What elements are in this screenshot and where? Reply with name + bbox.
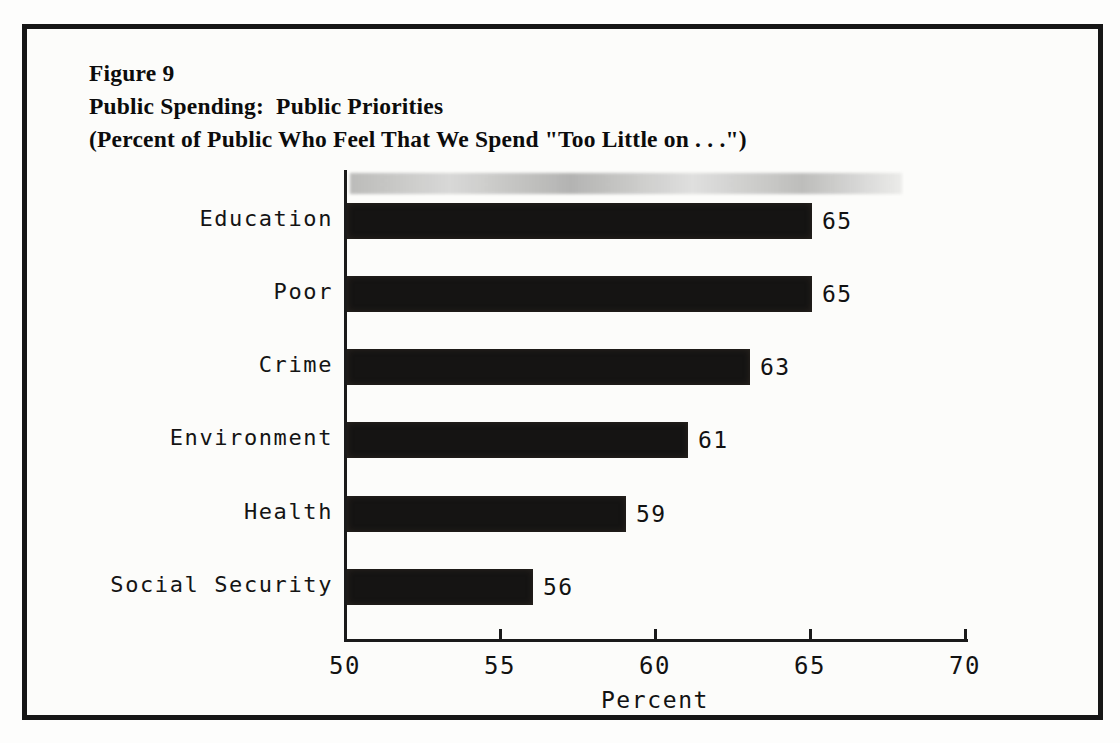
value-label: 59 xyxy=(636,501,667,527)
y-axis xyxy=(344,170,347,642)
x-tick-label: 55 xyxy=(455,652,545,680)
x-tick-label: 50 xyxy=(300,652,390,680)
x-tick-label: 70 xyxy=(920,652,1010,680)
category-label: Environment xyxy=(60,425,333,450)
scanned-figure-page: Figure 9 Public Spending: Public Priorit… xyxy=(0,0,1120,743)
x-tick-label: 65 xyxy=(765,652,855,680)
bar xyxy=(347,203,812,239)
bar xyxy=(347,349,750,385)
bar-chart: Education65Poor65Crime63Environment61Hea… xyxy=(0,0,1120,743)
value-label: 56 xyxy=(543,574,574,600)
x-tick-mark xyxy=(964,629,967,641)
bar xyxy=(347,422,688,458)
x-tick-label: 60 xyxy=(610,652,700,680)
value-label: 61 xyxy=(698,427,729,453)
bar xyxy=(347,569,533,605)
x-tick-mark xyxy=(809,629,812,641)
x-tick-mark xyxy=(654,629,657,641)
value-label: 65 xyxy=(822,208,853,234)
category-label: Social Security xyxy=(60,572,333,597)
scan-smudge-artifact xyxy=(350,173,902,194)
value-label: 65 xyxy=(822,281,853,307)
x-axis-title: Percent xyxy=(555,687,755,713)
category-label: Health xyxy=(60,499,333,524)
x-tick-mark xyxy=(499,629,502,641)
bar xyxy=(347,496,626,532)
value-label: 63 xyxy=(760,354,791,380)
bar xyxy=(347,276,812,312)
category-label: Education xyxy=(60,206,333,231)
category-label: Poor xyxy=(60,279,333,304)
category-label: Crime xyxy=(60,352,333,377)
